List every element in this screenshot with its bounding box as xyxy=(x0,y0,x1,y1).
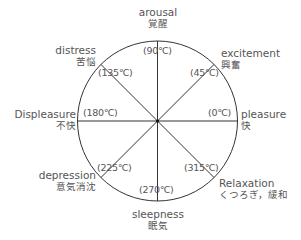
label-pleasure-ja: 快 xyxy=(241,120,286,132)
label-distress-ja: 苦悩 xyxy=(50,56,96,68)
label-depression: depression 意気消沈 xyxy=(30,169,96,193)
label-relaxation-en: Relaxation xyxy=(219,177,288,189)
label-arousal: arousal 覚醒 xyxy=(137,6,179,30)
label-arousal-en: arousal xyxy=(137,6,179,18)
label-distress: distress 苦悩 xyxy=(50,44,96,68)
label-excitement: excitement 興奮 xyxy=(221,47,280,71)
deg-180: (180℃) xyxy=(83,107,117,118)
label-sleepness-en: sleepness xyxy=(125,208,191,220)
label-pleasure-en: pleasure xyxy=(241,108,286,120)
label-displeasure-en: Displeasure xyxy=(4,108,76,120)
deg-90: (90℃) xyxy=(143,45,172,56)
label-depression-en: depression xyxy=(30,169,96,181)
label-sleepness: sleepness 眠気 xyxy=(125,208,191,232)
label-displeasure-ja: 不快 xyxy=(4,120,76,132)
label-depression-ja: 意気消沈 xyxy=(30,181,96,193)
label-sleepness-ja: 眠気 xyxy=(125,220,191,232)
label-excitement-en: excitement xyxy=(221,47,280,59)
deg-135: (135℃) xyxy=(98,67,132,78)
label-arousal-ja: 覚醒 xyxy=(137,18,179,30)
deg-270: (270℃) xyxy=(139,184,173,195)
deg-45: (45℃) xyxy=(190,67,219,78)
label-displeasure: Displeasure 不快 xyxy=(4,108,76,132)
deg-0: (0℃) xyxy=(208,107,231,118)
center-point xyxy=(156,119,159,122)
deg-315: (315℃) xyxy=(184,162,218,173)
label-distress-en: distress xyxy=(50,44,96,56)
label-excitement-ja: 興奮 xyxy=(221,59,280,71)
label-pleasure: pleasure 快 xyxy=(241,108,286,132)
deg-225: (225℃) xyxy=(97,162,131,173)
label-relaxation-ja: くつろぎ，緩和 xyxy=(219,189,288,201)
label-relaxation: Relaxation くつろぎ，緩和 xyxy=(219,177,288,201)
